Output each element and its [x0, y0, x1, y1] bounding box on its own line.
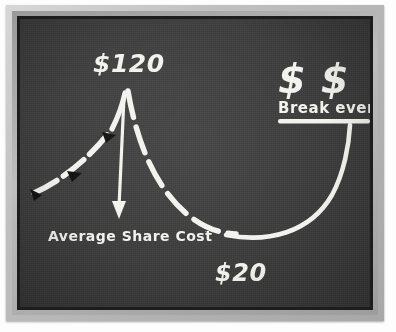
chalkboard-illustration: $120 $20 Average Share Cost Break even $… — [0, 0, 396, 332]
price-rise-curve — [34, 129, 112, 193]
average-share-cost-label: Average Share Cost — [48, 228, 212, 244]
trough-price-label: $20 — [215, 259, 267, 287]
money-symbols-label: $ $ — [278, 56, 349, 102]
break-even-underline — [278, 119, 370, 124]
recovery-curve — [226, 125, 350, 238]
chalk-drawing: $120 $20 Average Share Cost Break even $… — [20, 19, 370, 307]
arrowhead-icon — [67, 171, 82, 182]
chalkboard-surface: $120 $20 Average Share Cost Break even $… — [20, 19, 370, 307]
price-decline-curve — [128, 91, 236, 234]
peak-price-label: $120 — [93, 49, 165, 78]
